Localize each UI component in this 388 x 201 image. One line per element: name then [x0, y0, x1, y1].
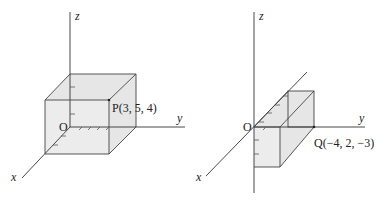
diagram-canvas: z y x O P(3, 5, 4) — [0, 0, 388, 201]
right-figure: z y x O Q(−4, 2, −3) — [195, 9, 374, 193]
x-axis-label: x — [10, 170, 17, 184]
origin-label: O — [243, 120, 252, 134]
x-axis-label: x — [195, 170, 202, 184]
y-axis-label: y — [358, 111, 365, 125]
z-axis-label: z — [258, 9, 264, 23]
left-figure: z y x O P(3, 5, 4) — [10, 9, 185, 184]
y-axis-label: y — [176, 111, 183, 125]
box-front-face — [254, 127, 280, 167]
origin-label: O — [59, 120, 68, 134]
point-p — [108, 99, 111, 102]
point-q-label: Q(−4, 2, −3) — [314, 136, 374, 150]
z-axis-label: z — [74, 9, 80, 23]
point-p-label: P(3, 5, 4) — [112, 101, 157, 115]
point-q — [313, 126, 316, 129]
